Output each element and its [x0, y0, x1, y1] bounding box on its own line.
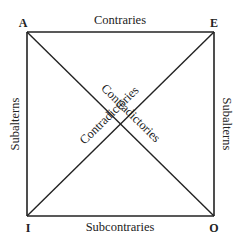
square-of-opposition: A E I O Contraries Subcontraries Subalte…: [0, 0, 240, 242]
edge-label-right: Subalterns: [220, 98, 234, 151]
corner-label-e: E: [210, 16, 218, 30]
corner-label-o: O: [209, 221, 218, 235]
corner-label-i: I: [26, 221, 31, 235]
edge-label-left: Subalterns: [8, 97, 22, 150]
edge-label-top: Contraries: [94, 13, 146, 27]
corner-label-a: A: [19, 16, 28, 30]
edge-label-bottom: Subcontraries: [86, 220, 155, 234]
